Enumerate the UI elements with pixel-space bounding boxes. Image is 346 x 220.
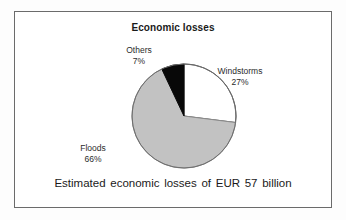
chart-frame: Economic losses Others 7% Windstorms 27% bbox=[14, 11, 332, 208]
pie-label-windstorms: Windstorms 27% bbox=[209, 66, 271, 87]
pie-label-others-percent: 7% bbox=[116, 56, 162, 67]
pie-label-others-name: Others bbox=[126, 45, 152, 55]
pie-label-floods-percent: 66% bbox=[70, 154, 116, 165]
pie-label-others: Others 7% bbox=[116, 45, 162, 66]
chart-screenshot: Economic losses Others 7% Windstorms 27% bbox=[0, 0, 346, 220]
pie-label-windstorms-percent: 27% bbox=[209, 77, 271, 88]
pie-label-floods: Floods 66% bbox=[70, 143, 116, 164]
pie-label-windstorms-name: Windstorms bbox=[218, 66, 263, 76]
pie-label-floods-name: Floods bbox=[80, 143, 106, 153]
chart-caption: Estimated economic losses of EUR 57 bill… bbox=[15, 177, 331, 189]
